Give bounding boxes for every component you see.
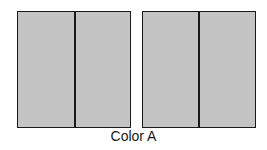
caption: Color A	[0, 128, 267, 144]
right-panel-divider	[198, 12, 200, 127]
left-panel-divider	[74, 12, 76, 127]
left-panel	[17, 11, 131, 128]
right-panel	[142, 11, 256, 128]
